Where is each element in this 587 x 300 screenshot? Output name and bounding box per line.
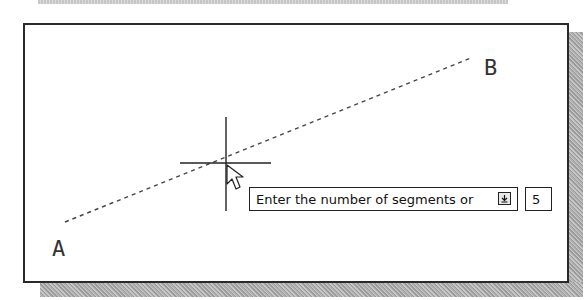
arrow-pointer-icon (227, 165, 243, 189)
segments-value-input[interactable]: 5 (525, 187, 552, 211)
dynamic-input-prompt: Enter the number of segments or (249, 187, 518, 211)
down-arrow-options-icon[interactable] (498, 192, 511, 205)
prompt-text: Enter the number of segments or (256, 192, 473, 207)
drawing-layer (0, 0, 587, 300)
point-b-label: B (484, 57, 497, 79)
point-a-label: A (52, 238, 65, 260)
